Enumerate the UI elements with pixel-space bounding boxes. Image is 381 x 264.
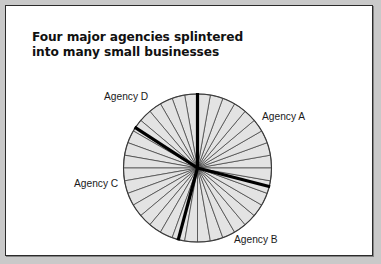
chart-panel: Four major agencies splintered into many… bbox=[5, 5, 373, 256]
screenshot-root: Four major agencies splintered into many… bbox=[0, 0, 381, 264]
annotation-agency-d: Agency D bbox=[104, 91, 148, 102]
pie-chart-svg bbox=[6, 6, 374, 257]
annotation-agency-c: Agency C bbox=[74, 178, 118, 189]
annotation-agency-b: Agency B bbox=[234, 234, 278, 245]
annotation-agency-a: Agency A bbox=[262, 111, 305, 122]
pie-chart: Agency A Agency B Agency C Agency D bbox=[6, 6, 374, 257]
